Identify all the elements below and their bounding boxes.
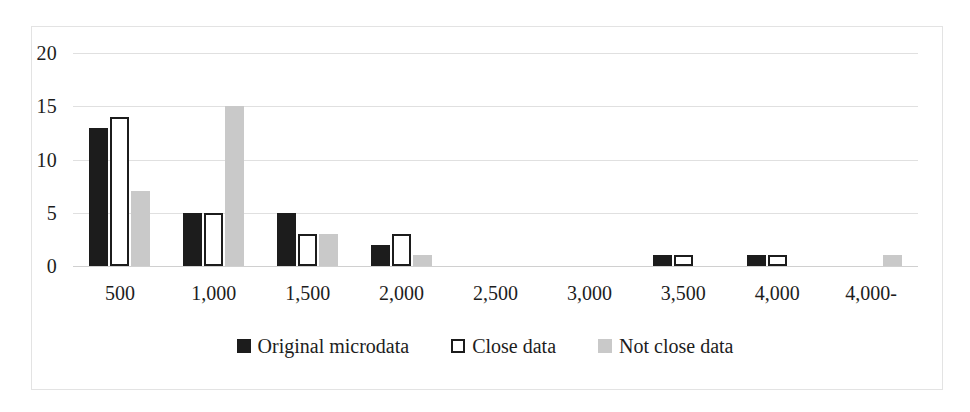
- bar: [89, 128, 108, 266]
- bar: [110, 117, 129, 266]
- legend-item[interactable]: Original microdata: [237, 336, 410, 356]
- gridline-0: [73, 266, 918, 267]
- bar: [392, 234, 411, 266]
- legend-label: Original microdata: [258, 336, 410, 356]
- bar: [768, 255, 787, 266]
- y-axis-tick-label: 5: [17, 203, 57, 223]
- y-axis-tick-label: 0: [17, 256, 57, 276]
- legend-swatch-icon: [237, 339, 251, 353]
- chart-legend: Original microdataClose dataNot close da…: [0, 336, 970, 356]
- bar: [204, 213, 223, 266]
- bar: [319, 234, 338, 266]
- y-axis-tick-label: 10: [17, 150, 57, 170]
- legend-label: Not close data: [619, 336, 733, 356]
- x-axis-tick-label: 4,000-: [811, 283, 931, 303]
- legend-swatch-icon: [451, 339, 465, 353]
- bar: [674, 255, 693, 266]
- bar: [277, 213, 296, 266]
- bar: [183, 213, 202, 266]
- legend-item[interactable]: Close data: [451, 336, 556, 356]
- bar: [131, 191, 150, 266]
- bar: [371, 245, 390, 266]
- legend-item[interactable]: Not close data: [598, 336, 733, 356]
- bar: [883, 255, 902, 266]
- legend-swatch-icon: [598, 339, 612, 353]
- bar: [653, 255, 672, 266]
- y-axis-tick-label: 20: [17, 43, 57, 63]
- bar: [298, 234, 317, 266]
- bar: [747, 255, 766, 266]
- y-axis-tick-label: 15: [17, 96, 57, 116]
- plot-area: [73, 53, 918, 266]
- bar: [225, 106, 244, 266]
- legend-label: Close data: [472, 336, 556, 356]
- bar: [413, 255, 432, 266]
- grouped-bar-chart: 05101520 5001,0001,5002,0002,5003,0003,5…: [0, 0, 970, 412]
